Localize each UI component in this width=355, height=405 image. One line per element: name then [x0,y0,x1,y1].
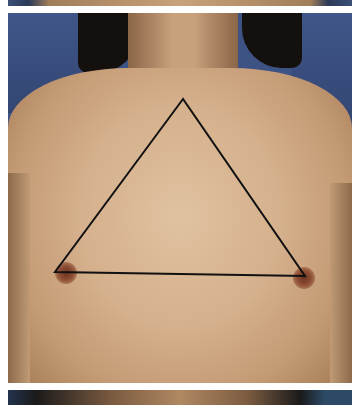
triangle-overlay [0,0,355,405]
measurement-triangle [55,99,305,276]
bottom-photo-strip [8,390,352,405]
